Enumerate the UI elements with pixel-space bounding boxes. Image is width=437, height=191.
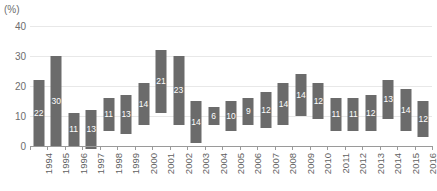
bar[interactable]: 11 xyxy=(68,113,79,146)
bar-slot: 11 xyxy=(327,26,344,146)
bar-value-label: 11 xyxy=(69,125,78,134)
x-axis-tick-mark xyxy=(432,146,433,150)
x-axis-tick-label: 2002 xyxy=(183,153,194,174)
bar-value-label: 12 xyxy=(261,106,270,115)
bar-slot: 11 xyxy=(345,26,362,146)
bar-value-label: 9 xyxy=(246,107,251,116)
x-axis-tick-label: 2007 xyxy=(270,153,281,174)
x-axis-tick-label: 2015 xyxy=(410,153,421,174)
bar-value-label: 14 xyxy=(401,106,410,115)
bar[interactable]: 22 xyxy=(33,80,44,146)
bar[interactable]: 13 xyxy=(383,80,394,119)
bar[interactable]: 14 xyxy=(138,83,149,125)
bar-value-label: 12 xyxy=(314,97,323,106)
x-axis-tick-mark xyxy=(292,146,293,150)
x-axis-tick-label: 1997 xyxy=(95,153,106,174)
x-axis-tick-label: 2008 xyxy=(287,153,298,174)
x-axis-tick-label: 2010 xyxy=(322,153,333,174)
bar-slot: 10 xyxy=(222,26,239,146)
x-axis-tick-mark xyxy=(397,146,398,150)
x-axis-tick-mark xyxy=(240,146,241,150)
x-axis-ticks: 1994199519961997199819992000200120022003… xyxy=(30,146,432,191)
bar-value-label: 14 xyxy=(139,100,148,109)
bar-slot: 6 xyxy=(205,26,222,146)
x-axis-tick-mark xyxy=(362,146,363,150)
x-axis-tick-mark xyxy=(30,146,31,150)
x-axis-tick-label: 2000 xyxy=(148,153,159,174)
y-axis-tick-label: 30 xyxy=(15,51,26,62)
bar[interactable]: 10 xyxy=(225,101,236,131)
bar-slot: 23 xyxy=(170,26,187,146)
x-axis-tick-mark xyxy=(327,146,328,150)
x-axis-tick-label: 2006 xyxy=(252,153,263,174)
bar[interactable]: 11 xyxy=(330,98,341,131)
x-axis-tick-label: 1999 xyxy=(130,153,141,174)
bar[interactable]: 14 xyxy=(295,74,306,116)
x-axis-tick-mark xyxy=(82,146,83,150)
x-axis-tick-label: 1996 xyxy=(78,153,89,174)
bar-slot: 9 xyxy=(240,26,257,146)
bar[interactable]: 12 xyxy=(418,101,429,137)
bar[interactable]: 12 xyxy=(365,95,376,131)
x-axis-tick-mark xyxy=(257,146,258,150)
bar[interactable]: 23 xyxy=(173,56,184,125)
x-axis-tick-label: 2016 xyxy=(427,153,437,174)
bar[interactable]: 12 xyxy=(313,83,324,119)
x-axis-tick-label: 2009 xyxy=(305,153,316,174)
bar-value-label: 23 xyxy=(174,86,183,95)
y-axis-unit-label: (%) xyxy=(4,4,20,15)
x-axis-tick-label: 2003 xyxy=(200,153,211,174)
x-axis-tick-mark xyxy=(380,146,381,150)
y-axis-tick-label: 10 xyxy=(15,111,26,122)
x-axis-tick-label: 2011 xyxy=(340,153,351,173)
bar[interactable]: 9 xyxy=(243,98,254,125)
bar[interactable]: 21 xyxy=(156,50,167,113)
x-axis-tick-label: 2012 xyxy=(357,153,368,174)
bar[interactable]: 30 xyxy=(51,56,62,146)
plot-area: 010203040 223011131113142123146109121414… xyxy=(30,26,432,146)
bar[interactable]: 13 xyxy=(86,110,97,149)
bar[interactable]: 14 xyxy=(191,101,202,143)
x-axis-tick-label: 2001 xyxy=(165,153,176,174)
bar-value-label: 22 xyxy=(34,109,43,118)
bar[interactable]: 14 xyxy=(278,83,289,125)
x-axis-tick-mark xyxy=(47,146,48,150)
bar-value-label: 13 xyxy=(121,110,130,119)
bar-value-label: 11 xyxy=(331,110,340,119)
bar-value-label: 14 xyxy=(279,100,288,109)
x-axis-tick-mark xyxy=(170,146,171,150)
bar[interactable]: 13 xyxy=(121,95,132,134)
bar-value-label: 12 xyxy=(366,109,375,118)
bar-value-label: 14 xyxy=(296,91,305,100)
bar[interactable]: 11 xyxy=(103,98,114,131)
bar-slot: 30 xyxy=(47,26,64,146)
bar-value-label: 11 xyxy=(349,110,358,119)
bar-slot: 12 xyxy=(362,26,379,146)
x-axis-tick-label: 2005 xyxy=(235,153,246,174)
bar-value-label: 21 xyxy=(156,77,165,86)
bar-series: 2230111311131421231461091214141211111213… xyxy=(30,26,432,146)
bar-slot: 14 xyxy=(397,26,414,146)
bar-value-label: 6 xyxy=(211,112,216,121)
bar-slot: 14 xyxy=(187,26,204,146)
bar[interactable]: 12 xyxy=(260,92,271,128)
bar-slot: 12 xyxy=(415,26,432,146)
bar-slot: 12 xyxy=(310,26,327,146)
x-axis-tick-mark xyxy=(135,146,136,150)
bar-slot: 13 xyxy=(117,26,134,146)
bar[interactable]: 14 xyxy=(400,89,411,131)
bar-value-label: 30 xyxy=(51,97,60,106)
bar-value-label: 12 xyxy=(419,115,428,124)
bar[interactable]: 11 xyxy=(348,98,359,131)
x-axis-tick-mark xyxy=(205,146,206,150)
x-axis-tick-mark xyxy=(65,146,66,150)
x-axis-tick-mark xyxy=(100,146,101,150)
bar-slot: 22 xyxy=(30,26,47,146)
x-axis-tick-label: 2004 xyxy=(218,153,229,174)
x-axis-tick-mark xyxy=(187,146,188,150)
x-axis-tick-mark xyxy=(117,146,118,150)
y-axis-tick-label: 40 xyxy=(15,21,26,32)
bar[interactable]: 6 xyxy=(208,107,219,125)
bar-slot: 12 xyxy=(257,26,274,146)
bar-value-label: 13 xyxy=(86,125,95,134)
